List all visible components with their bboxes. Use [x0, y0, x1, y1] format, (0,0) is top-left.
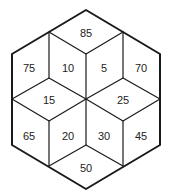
cell-value-upper-right-outer: 70 [135, 62, 147, 74]
cell-value-top: 85 [80, 27, 92, 39]
cell-value-mid-right: 25 [117, 94, 129, 106]
inner-lines [12, 32, 160, 166]
cell-value-lower-left-inner: 20 [62, 130, 74, 142]
cell-value-upper-right-inner: 5 [101, 62, 107, 74]
cell-value-upper-left-outer: 75 [23, 62, 35, 74]
cell-value-lower-right-outer: 45 [135, 130, 147, 142]
cell-value-lower-right-inner: 30 [98, 130, 110, 142]
cell-value-lower-left-outer: 65 [23, 130, 35, 142]
cell-value-bottom: 50 [80, 162, 92, 174]
cell-value-mid-left: 15 [43, 94, 55, 106]
cell-value-upper-left-inner: 10 [62, 62, 74, 74]
